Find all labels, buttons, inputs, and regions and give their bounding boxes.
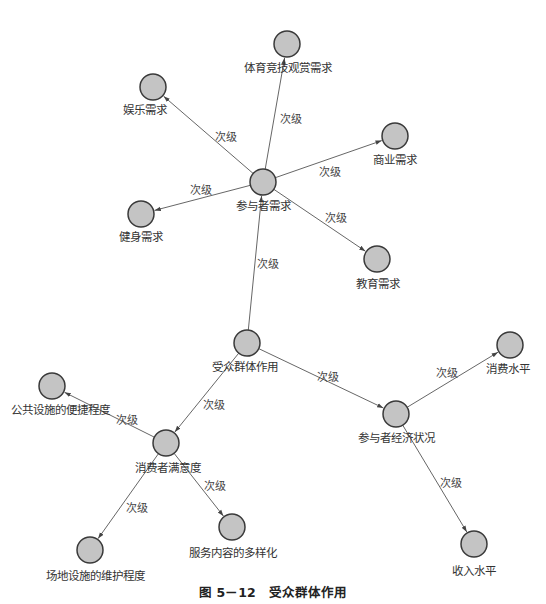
node-label-service-diversity: 服务内容的多样化	[189, 546, 278, 560]
node-fitness	[128, 201, 154, 227]
node-audience	[234, 330, 260, 356]
node-entertainment	[140, 74, 166, 100]
edge-label: 次级	[325, 211, 347, 225]
node-economic-status	[383, 401, 409, 427]
edges-layer	[65, 58, 499, 539]
node-label-public-facility: 公共设施的便捷程度	[11, 403, 111, 417]
edge-label: 次级	[204, 479, 226, 493]
node-label-audience: 受众群体作用	[212, 360, 278, 374]
node-label-economic-status: 参与者经济状况	[358, 431, 436, 445]
node-label-commercial: 商业需求	[373, 153, 418, 167]
node-sports-viewing	[274, 31, 300, 57]
edge-label: 次级	[436, 366, 458, 380]
node-label-education: 教育需求	[356, 277, 401, 291]
node-label-consumption-level: 消费水平	[486, 362, 530, 376]
edge-label: 次级	[317, 370, 339, 384]
node-commercial	[382, 123, 408, 149]
network-diagram: 次级次级次级次级次级次级次级次级次级次级次级次级次级 受众群体作用参与者需求体育…	[0, 0, 546, 604]
node-education	[364, 246, 390, 272]
node-label-sports-viewing: 体育竞技观赏需求	[244, 61, 333, 75]
edge-arrow	[164, 96, 254, 173]
node-label-venue-maintenance: 场地设施的维护程度	[46, 569, 146, 583]
node-satisfaction	[153, 430, 179, 456]
node-participant-demand	[250, 169, 276, 195]
node-venue-maintenance	[77, 537, 103, 563]
edge-label: 次级	[203, 398, 225, 412]
node-label-satisfaction: 消费者满意度	[135, 461, 202, 475]
figure-caption: 图 5－12 受众群体作用	[199, 585, 346, 600]
edge-label: 次级	[116, 413, 138, 427]
edge-label: 次级	[215, 130, 237, 144]
edge-label: 次级	[126, 501, 148, 515]
edge-label: 次级	[280, 112, 302, 126]
node-label-income-level: 收入水平	[452, 564, 496, 578]
edge-label: 次级	[319, 165, 341, 179]
node-label-fitness: 健身需求	[119, 230, 164, 244]
node-consumption-level	[497, 332, 523, 358]
node-income-level	[461, 531, 487, 557]
edge-label: 次级	[440, 476, 462, 490]
node-service-diversity	[219, 514, 245, 540]
node-public-facility	[39, 373, 65, 399]
node-label-participant-demand: 参与者需求	[236, 199, 292, 213]
edge-label: 次级	[257, 257, 279, 271]
node-label-entertainment: 娱乐需求	[123, 103, 168, 117]
edge-label: 次级	[190, 183, 212, 197]
